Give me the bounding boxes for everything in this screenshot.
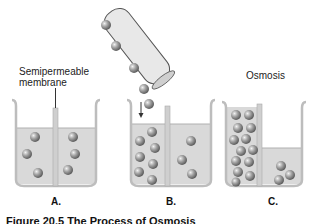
particle: [233, 167, 243, 177]
particle: [186, 136, 196, 146]
particle: [129, 63, 139, 73]
particle: [232, 178, 241, 187]
particle: [248, 145, 258, 155]
particle: [147, 175, 157, 185]
particle: [274, 175, 284, 185]
particle: [231, 110, 241, 120]
particle: [244, 157, 254, 167]
particle: [229, 135, 239, 145]
particle: [276, 161, 286, 171]
panel-label-c: C.: [268, 196, 278, 207]
particle: [33, 168, 43, 178]
osmosis-label: Osmosis: [246, 70, 285, 81]
osmosis-diagram: [0, 0, 319, 224]
particle: [187, 169, 197, 179]
particle: [233, 123, 243, 133]
particle: [236, 146, 246, 156]
particle: [135, 152, 145, 162]
particle: [246, 123, 256, 133]
particle: [241, 134, 251, 144]
particle: [147, 127, 157, 137]
particle: [101, 20, 111, 30]
particle: [30, 132, 40, 142]
beaker-a: [12, 88, 100, 186]
particle: [177, 155, 187, 165]
beaker-b: [127, 100, 215, 186]
particle: [144, 99, 154, 109]
panel-label-b: B.: [166, 196, 176, 207]
particle: [285, 170, 295, 180]
membrane-c: [257, 104, 262, 186]
pouring-tube: [99, 4, 176, 118]
particle: [68, 132, 78, 142]
particle: [245, 171, 255, 181]
membrane-label: Semipermeable membrane: [19, 66, 89, 88]
particle: [63, 165, 73, 175]
figure-caption: Figure 20.5 The Process of Osmosis: [6, 215, 196, 224]
particle: [150, 143, 160, 153]
particle: [148, 159, 158, 169]
particle: [244, 110, 254, 120]
panel-label-a: A.: [51, 196, 61, 207]
membrane-b: [165, 106, 170, 186]
membrane-a: [53, 108, 58, 186]
particle: [22, 149, 32, 159]
beaker-c: [222, 102, 306, 187]
particle: [134, 167, 144, 177]
particle: [111, 41, 121, 51]
particle: [231, 156, 241, 166]
particle: [135, 136, 145, 146]
particle: [139, 84, 149, 94]
particle: [70, 149, 80, 159]
